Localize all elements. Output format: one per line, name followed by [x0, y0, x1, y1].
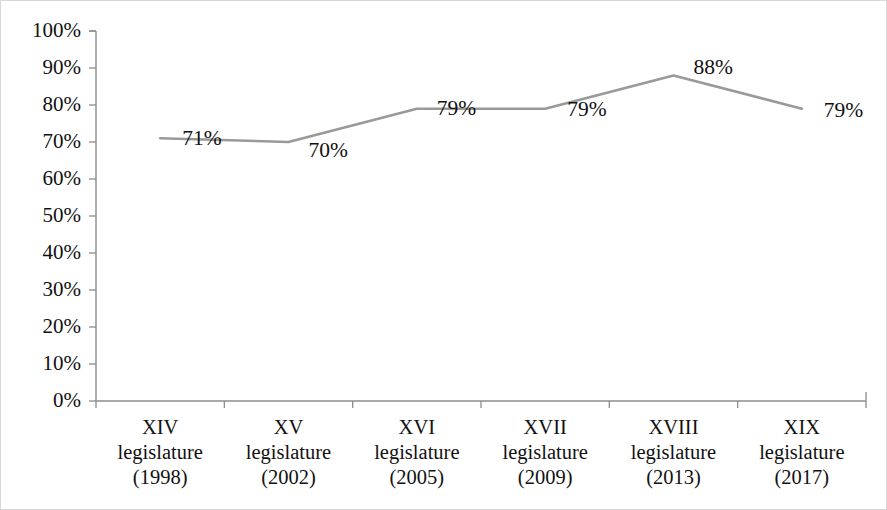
y-axis-tick-label: 0% — [1, 390, 81, 411]
x-axis-label-body: legislature — [738, 440, 866, 465]
x-axis-category-label: XVlegislature(2002) — [224, 415, 352, 490]
data-point-label: 71% — [182, 128, 221, 150]
x-axis-label-year: (2009) — [481, 465, 609, 490]
y-axis-tick-label: 40% — [1, 242, 81, 263]
x-axis-category-label: XVIIlegislature(2009) — [481, 415, 609, 490]
x-axis-label-body: legislature — [224, 440, 352, 465]
x-axis-label-body: legislature — [353, 440, 481, 465]
x-axis-label-year: (2013) — [609, 465, 737, 490]
data-point-label: 88% — [694, 57, 733, 79]
data-point-label: 79% — [567, 99, 606, 121]
x-axis-category-label: XVIlegislature(2005) — [353, 415, 481, 490]
x-axis-label-numeral: XVII — [481, 415, 609, 440]
axes-group — [89, 31, 866, 408]
x-axis-label-body: legislature — [481, 440, 609, 465]
x-axis-label-numeral: XVIII — [609, 415, 737, 440]
y-axis-tick-label: 10% — [1, 353, 81, 374]
y-axis-tick-label: 90% — [1, 57, 81, 78]
y-axis-tick-label: 20% — [1, 316, 81, 337]
x-axis-label-numeral: XVI — [353, 415, 481, 440]
x-axis-label-numeral: XV — [224, 415, 352, 440]
y-axis-tick-label: 30% — [1, 279, 81, 300]
data-point-label: 79% — [824, 100, 863, 122]
x-axis-label-year: (2002) — [224, 465, 352, 490]
y-axis-tick-label: 50% — [1, 205, 81, 226]
line-chart: 0%10%20%30%40%50%60%70%80%90%100% XIVleg… — [0, 0, 887, 510]
x-axis-label-year: (1998) — [96, 465, 224, 490]
x-axis-label-body: legislature — [96, 440, 224, 465]
y-axis-tick-label: 80% — [1, 94, 81, 115]
x-axis-label-numeral: XIV — [96, 415, 224, 440]
y-axis-tick-label: 60% — [1, 168, 81, 189]
x-axis-label-body: legislature — [609, 440, 737, 465]
data-point-label: 79% — [437, 98, 476, 120]
x-axis-category-label: XIXlegislature(2017) — [738, 415, 866, 490]
series-line — [160, 75, 802, 142]
data-series-line — [160, 75, 802, 142]
x-axis-category-label: XVIIIlegislature(2013) — [609, 415, 737, 490]
y-axis-tick-label: 70% — [1, 131, 81, 152]
x-axis-label-year: (2005) — [353, 465, 481, 490]
x-axis-label-numeral: XIX — [738, 415, 866, 440]
data-point-label: 70% — [309, 140, 348, 162]
y-axis-tick-label: 100% — [1, 20, 81, 41]
x-axis-category-label: XIVlegislature(1998) — [96, 415, 224, 490]
x-axis-label-year: (2017) — [738, 465, 866, 490]
